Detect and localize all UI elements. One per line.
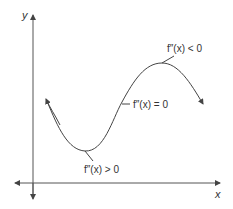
concavity-diagram: y x f″(x) < 0 f″(x) = 0 f″(x) > 0 <box>0 0 233 209</box>
y-axis-label: y <box>21 9 29 21</box>
min-leader-line <box>85 151 93 161</box>
max-annotation: f″(x) < 0 <box>167 43 202 54</box>
inflection-annotation: f″(x) = 0 <box>133 99 168 110</box>
function-curve <box>47 63 203 151</box>
min-annotation: f″(x) > 0 <box>84 164 119 175</box>
x-axis-label: x <box>214 188 221 200</box>
max-leader-line <box>162 56 174 63</box>
